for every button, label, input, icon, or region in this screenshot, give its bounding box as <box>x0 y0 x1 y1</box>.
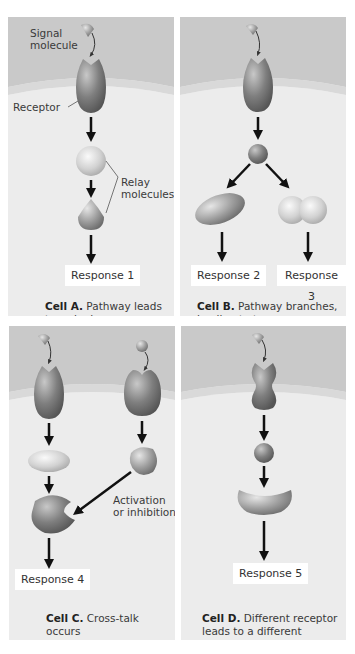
relay-molecule-icon <box>254 443 274 463</box>
response-1-box: Response 1 <box>65 265 140 286</box>
relay-molecule-1-icon <box>76 146 106 176</box>
activation-inhibition-label: Activation or inhibition <box>113 494 175 518</box>
cell-b-panel: Response 2 Response 3 Cell B. Pathway br… <box>180 17 346 316</box>
signal-molecule-2-icon <box>136 340 148 352</box>
response-2-box: Response 2 <box>191 265 266 286</box>
signal-molecule-label: Signal molecule <box>30 27 78 51</box>
receptor-icon <box>243 58 273 112</box>
cell-a-caption: Cell A. Pathway leads to a single respon… <box>45 300 162 316</box>
cell-d-panel: Response 5 Cell D. Different receptor le… <box>181 326 346 640</box>
receptor-icon <box>76 59 106 113</box>
receptor-label: Receptor <box>13 101 60 113</box>
cell-d-diagram <box>181 326 346 640</box>
response-4-box: Response 4 <box>15 569 90 590</box>
receptor-1-icon <box>34 366 64 419</box>
response-5-box: Response 5 <box>233 563 308 584</box>
cell-c-diagram <box>9 326 175 640</box>
response-3-box: Response 3 <box>277 265 346 286</box>
cell-d-caption: Cell D. Different receptor leads to a di… <box>202 612 346 640</box>
relay-molecule-icon <box>248 144 268 164</box>
cell-b-caption: Cell B. Pathway branches, leading to two… <box>197 300 337 316</box>
relay-molecules-label: Relay molecules <box>121 176 174 200</box>
cell-c-panel: Activation or inhibition Response 4 Cell… <box>9 326 175 640</box>
receptor-2-icon <box>124 370 161 416</box>
cell-a-panel: Signal molecule Receptor Relay molecules… <box>8 17 174 316</box>
relay-protein-1-icon <box>28 450 70 472</box>
cell-c-caption: Cell C. Cross-talk occurs between two pa… <box>46 612 175 640</box>
